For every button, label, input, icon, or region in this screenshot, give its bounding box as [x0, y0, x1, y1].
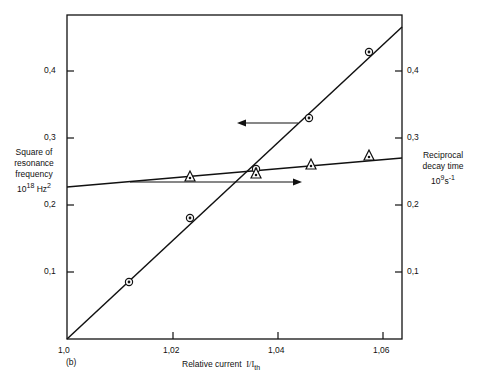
arrow-left-icon — [237, 120, 298, 127]
chart-plot — [0, 0, 478, 384]
plot-frame — [67, 15, 402, 339]
triangle-marker — [306, 159, 316, 169]
decay-markers — [185, 150, 374, 181]
circle-marker — [125, 278, 132, 285]
triangle-marker — [364, 150, 374, 160]
left-ticks — [67, 71, 74, 272]
x-ticks — [173, 332, 383, 339]
circle-marker — [305, 114, 312, 121]
circle-marker — [365, 48, 372, 55]
circle-marker — [186, 214, 193, 221]
right-ticks — [395, 71, 402, 272]
